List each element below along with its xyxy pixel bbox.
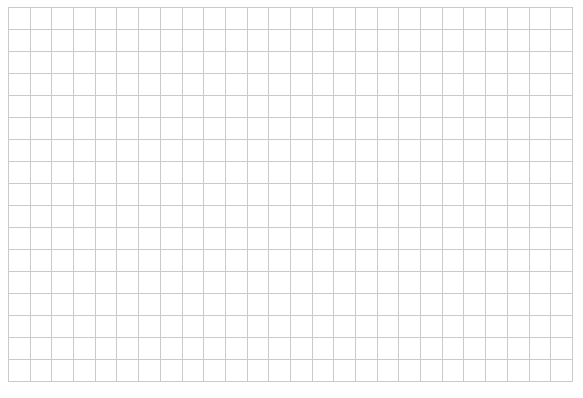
grid-row [9, 8, 573, 30]
grid-cell [182, 294, 204, 316]
grid-cell [290, 140, 312, 162]
grid-cell [269, 30, 291, 52]
grid-cell [225, 52, 247, 74]
grid-cell [139, 272, 161, 294]
grid-cell [160, 30, 182, 52]
grid-cell [182, 118, 204, 140]
grid-row [9, 360, 573, 382]
grid-cell [52, 228, 74, 250]
grid-row [9, 338, 573, 360]
grid-cell [399, 118, 421, 140]
grid-cell [269, 162, 291, 184]
grid-cell [399, 162, 421, 184]
grid-cell [486, 360, 508, 382]
grid-cell [464, 8, 486, 30]
grid-cell [421, 52, 443, 74]
grid-cell [464, 162, 486, 184]
grid-cell [421, 74, 443, 96]
grid-cell [312, 118, 334, 140]
grid-cell [225, 206, 247, 228]
grid-cell [442, 30, 464, 52]
grid-cell [117, 8, 139, 30]
grid-cell [464, 294, 486, 316]
grid-cell [399, 228, 421, 250]
grid-cell [269, 8, 291, 30]
grid-cell [399, 272, 421, 294]
grid-cell [204, 272, 226, 294]
grid-cell [421, 118, 443, 140]
grid-cell [442, 206, 464, 228]
grid-cell [356, 338, 378, 360]
grid-cell [399, 30, 421, 52]
grid-cell [377, 118, 399, 140]
grid-cell [9, 206, 31, 228]
grid-row [9, 52, 573, 74]
grid-cell [486, 118, 508, 140]
grid-cell [204, 206, 226, 228]
grid-cell [356, 140, 378, 162]
grid-cell [486, 96, 508, 118]
grid-cell [74, 360, 96, 382]
grid-cell [421, 316, 443, 338]
grid-cell [312, 162, 334, 184]
grid-cell [95, 228, 117, 250]
grid-cell [507, 74, 529, 96]
grid-cell [269, 118, 291, 140]
grid-cell [117, 74, 139, 96]
grid-cell [247, 96, 269, 118]
grid-cell [312, 294, 334, 316]
grid-cell [507, 118, 529, 140]
grid-cell [312, 30, 334, 52]
grid-cell [30, 52, 52, 74]
grid-cell [160, 184, 182, 206]
grid-row [9, 250, 573, 272]
grid-cell [421, 250, 443, 272]
grid-cell [9, 96, 31, 118]
grid-row [9, 140, 573, 162]
grid-cell [52, 96, 74, 118]
grid-cell [139, 140, 161, 162]
grid-cell [30, 338, 52, 360]
grid-cell [225, 162, 247, 184]
grid-cell [30, 228, 52, 250]
grid-cell [334, 360, 356, 382]
grid-cell [442, 96, 464, 118]
grid-cell [204, 316, 226, 338]
grid-cell [117, 316, 139, 338]
grid-cell [356, 206, 378, 228]
grid-cell [139, 74, 161, 96]
grid-cell [117, 360, 139, 382]
grid-cell [290, 294, 312, 316]
grid-cell [529, 294, 551, 316]
grid-cell [312, 250, 334, 272]
grid-cell [507, 360, 529, 382]
grid-cell [52, 74, 74, 96]
grid-cell [464, 184, 486, 206]
grid-row [9, 184, 573, 206]
grid-cell [225, 272, 247, 294]
grid-cell [247, 228, 269, 250]
grid-cell [247, 52, 269, 74]
grid-cell [160, 74, 182, 96]
grid-cell [95, 272, 117, 294]
grid-cell [507, 162, 529, 184]
grid-cell [399, 360, 421, 382]
grid-cell [139, 294, 161, 316]
grid-cell [52, 272, 74, 294]
grid-cell [269, 96, 291, 118]
grid-cell [551, 140, 573, 162]
grid-cell [117, 52, 139, 74]
grid-cell [30, 30, 52, 52]
grid-cell [529, 360, 551, 382]
grid-cell [52, 184, 74, 206]
grid-cell [160, 294, 182, 316]
grid-cell [312, 360, 334, 382]
grid-cell [551, 162, 573, 184]
grid-cell [182, 96, 204, 118]
grid-cell [334, 118, 356, 140]
grid-cell [52, 250, 74, 272]
grid-cell [204, 118, 226, 140]
grid-cell [334, 184, 356, 206]
grid-cell [52, 118, 74, 140]
grid-cell [74, 338, 96, 360]
